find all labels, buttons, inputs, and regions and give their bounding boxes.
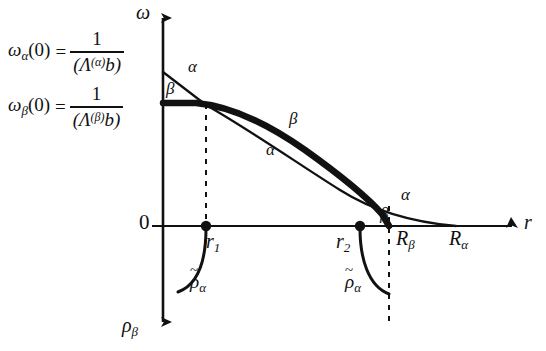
formula-alpha-denominator: (Λ(α)b) — [70, 53, 124, 76]
curve-beta — [163, 103, 389, 226]
curve-label-beta-left: β — [166, 80, 174, 97]
figure-root: ωα(0) = 1 (Λ(α)b) ωβ(0) = 1 (Λ(β)b) ω r … — [0, 0, 546, 351]
formula-omega-beta: ωβ(0) = 1 (Λ(β)b) — [8, 83, 123, 131]
tilde-accent: ~ — [345, 263, 353, 278]
tick-label-R-alpha: Rα — [449, 228, 468, 251]
formula-alpha-equals: = — [55, 41, 66, 63]
formula-alpha-fraction: 1 (Λ(α)b) — [70, 28, 124, 76]
formula-beta-denominator: (Λ(β)b) — [70, 108, 124, 131]
arc-label-rho-tilde-alpha-right: ~ ρα — [345, 272, 361, 294]
formula-omega-alpha: ωα(0) = 1 (Λ(α)b) — [8, 28, 124, 76]
tick-label-R-beta: Rβ — [396, 228, 415, 251]
curve-label-alpha-left: α — [188, 58, 197, 75]
formula-beta-fraction: 1 (Λ(β)b) — [70, 83, 124, 131]
tilde-accent: ~ — [190, 263, 198, 278]
axis-label-omega: ω — [136, 2, 150, 22]
formula-beta-lhs: ωβ(0) — [8, 94, 50, 119]
formula-beta-numerator: 1 — [84, 83, 110, 106]
axis-label-rho-beta: ρβ — [122, 315, 138, 338]
formula-alpha-lhs: ωα(0) — [8, 39, 50, 64]
arc-rho-tilde-alpha-right — [360, 228, 389, 294]
axis-label-r: r — [524, 212, 532, 232]
formula-beta-equals: = — [55, 96, 66, 118]
formula-alpha-numerator: 1 — [84, 28, 110, 51]
curve-label-beta-right: β — [380, 205, 388, 222]
arc-label-rho-tilde-alpha-left: ~ ρα — [190, 272, 206, 294]
curve-label-beta-mid: β — [289, 110, 297, 127]
curve-label-alpha-right: α — [401, 186, 410, 203]
origin-label: 0 — [139, 212, 150, 233]
tick-label-r1: r1 — [206, 231, 220, 254]
curve-label-alpha-mid: α — [266, 141, 275, 158]
tick-label-r2: r2 — [336, 231, 350, 254]
